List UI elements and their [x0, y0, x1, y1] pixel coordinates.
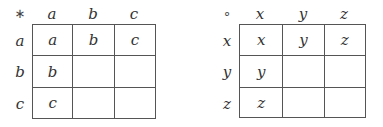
table-row: x y z — [240, 25, 366, 56]
table-row: y — [240, 56, 366, 88]
cell-z-z — [324, 88, 365, 118]
cell-z-x: z — [240, 88, 283, 118]
cell-c-c — [114, 88, 155, 119]
column-header-x: x — [253, 6, 267, 22]
cell-c-b — [73, 88, 114, 119]
cell-a-a: a — [33, 25, 73, 56]
row-header-y: y — [220, 64, 234, 80]
row-header-b: b — [13, 64, 27, 80]
column-header-y: y — [296, 6, 310, 22]
table-row: b — [33, 56, 156, 88]
cell-a-c: c — [114, 25, 155, 56]
operator-circ-symbol: ∘ — [220, 6, 234, 22]
cell-z-y — [283, 88, 324, 118]
cell-c-a: c — [33, 88, 73, 119]
row-header-x: x — [220, 33, 234, 49]
row-header-c: c — [13, 96, 27, 112]
column-header-z: z — [337, 6, 351, 22]
cell-y-x: y — [240, 56, 283, 88]
column-header-a: a — [45, 6, 59, 22]
cell-y-y — [283, 56, 324, 88]
cayley-grid-star: a b c b c — [32, 24, 156, 119]
column-header-b: b — [86, 6, 100, 22]
cell-a-b: b — [73, 25, 114, 56]
row-header-z: z — [220, 96, 234, 112]
cell-x-y: y — [283, 25, 324, 56]
table-row: c — [33, 88, 156, 119]
cell-x-z: z — [324, 25, 365, 56]
operator-star-symbol: ∗ — [13, 6, 27, 22]
column-header-c: c — [127, 6, 141, 22]
table-row: a b c — [33, 25, 156, 56]
cell-b-c — [114, 56, 155, 88]
cell-y-z — [324, 56, 365, 88]
cell-b-b — [73, 56, 114, 88]
cell-x-x: x — [240, 25, 283, 56]
row-header-a: a — [13, 33, 27, 49]
table-row: z — [240, 88, 366, 118]
cell-b-a: b — [33, 56, 73, 88]
cayley-grid-circ: x y z y z — [239, 24, 366, 118]
